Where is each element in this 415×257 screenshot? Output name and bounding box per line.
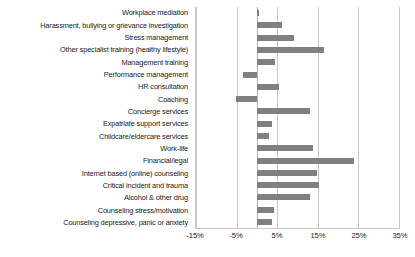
bar <box>257 170 317 176</box>
bar-row <box>196 56 399 68</box>
category-label: Financial/legal <box>0 155 192 167</box>
category-label: Coaching <box>0 93 192 105</box>
bar-row <box>196 105 399 117</box>
category-label: Internet based (online) counseling <box>0 167 192 179</box>
value-axis: -15%-5%5%15%25%35% <box>195 231 400 247</box>
bar <box>257 158 354 164</box>
category-label: Workplace mediation <box>0 7 192 19</box>
bar <box>257 108 310 114</box>
bar-row <box>196 7 399 19</box>
category-label: Counseling stress/motivation <box>0 204 192 216</box>
bar <box>257 207 274 213</box>
category-label: Harassment, bullying or grievance invest… <box>0 19 192 31</box>
bar <box>257 219 272 225</box>
bar-row <box>196 154 399 166</box>
bar-row <box>196 191 399 203</box>
x-tick-label: 5% <box>272 231 283 240</box>
x-tick-label: 15% <box>310 231 325 240</box>
gridline <box>399 7 400 228</box>
category-label: Childcare/eldercare services <box>0 130 192 142</box>
category-label: Concierge services <box>0 106 192 118</box>
bar <box>257 84 279 90</box>
bar-chart: Workplace mediationHarassment, bullying … <box>0 0 415 257</box>
bar-row <box>196 216 399 228</box>
bar-row <box>196 81 399 93</box>
category-label: Stress management <box>0 32 192 44</box>
bar <box>257 182 319 188</box>
category-label: Alcohol & other drug <box>0 192 192 204</box>
category-label: Expatriate support services <box>0 118 192 130</box>
bar <box>257 121 272 127</box>
category-label: Work-life <box>0 143 192 155</box>
bar <box>257 194 310 200</box>
category-label: Management training <box>0 56 192 68</box>
bar <box>257 47 324 53</box>
category-label: Critical incident and trauma <box>0 180 192 192</box>
bar <box>243 72 257 78</box>
x-tick-label: 25% <box>351 231 366 240</box>
x-tick-label: -15% <box>186 231 204 240</box>
bar-row <box>196 130 399 142</box>
category-label: Other specialist training (healthy lifes… <box>0 44 192 56</box>
x-tick-label: 35% <box>392 231 407 240</box>
bar <box>257 10 259 16</box>
bar-row <box>196 142 399 154</box>
bar-row <box>196 179 399 191</box>
bar-row <box>196 118 399 130</box>
category-label: HR consultation <box>0 81 192 93</box>
plot-area <box>195 7 400 229</box>
bar-row <box>196 19 399 31</box>
bar-series <box>196 7 399 228</box>
bar <box>257 145 313 151</box>
bar <box>257 133 269 139</box>
bar <box>257 35 294 41</box>
bar-row <box>196 68 399 80</box>
bar-row <box>196 44 399 56</box>
bar-row <box>196 93 399 105</box>
category-label: Performance management <box>0 69 192 81</box>
bar-row <box>196 32 399 44</box>
x-tick-label: -5% <box>229 231 243 240</box>
category-axis: Workplace mediationHarassment, bullying … <box>0 7 192 229</box>
bar <box>236 96 257 102</box>
bar-row <box>196 167 399 179</box>
bar <box>257 59 275 65</box>
bar <box>257 22 282 28</box>
bar-row <box>196 204 399 216</box>
category-label: Counseling depressive, panic or anxiety <box>0 217 192 229</box>
